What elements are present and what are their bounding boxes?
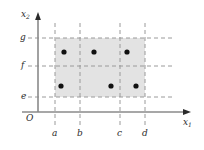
y-axis-label-subscript: 2 bbox=[26, 13, 30, 20]
figure-canvas: x2 x1 O g f e a b c d bbox=[0, 0, 204, 150]
data-point bbox=[124, 49, 129, 54]
y-tick-label-g: g bbox=[20, 33, 26, 42]
x-axis-label-subscript: 1 bbox=[188, 121, 192, 128]
x-tick-label-d: d bbox=[142, 129, 148, 138]
data-point bbox=[58, 83, 63, 88]
coordinate-plot-svg bbox=[0, 0, 204, 150]
y-tick-label-e: e bbox=[21, 92, 26, 101]
data-point bbox=[61, 49, 66, 54]
x-tick-label-a: a bbox=[52, 129, 57, 138]
x-tick-label-b: b bbox=[77, 129, 83, 138]
x-axis-label: x1 bbox=[183, 118, 192, 127]
x-axis-arrowhead bbox=[183, 109, 191, 115]
x-tick-label-c: c bbox=[117, 129, 122, 138]
origin-label: O bbox=[26, 114, 33, 123]
data-point bbox=[133, 83, 138, 88]
y-axis-arrowhead bbox=[35, 12, 41, 20]
data-point bbox=[108, 83, 113, 88]
data-point bbox=[91, 49, 96, 54]
shaded-region bbox=[55, 38, 145, 97]
y-tick-label-f: f bbox=[21, 61, 24, 70]
y-axis-label: x2 bbox=[21, 10, 30, 19]
